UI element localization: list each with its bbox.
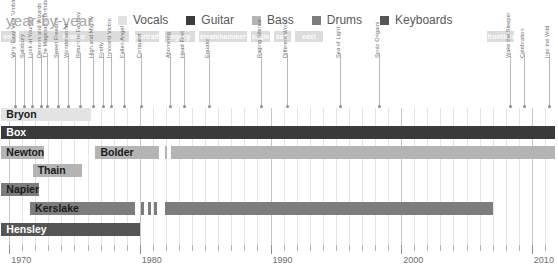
- legend-item-vocals: Vocals: [118, 13, 168, 27]
- album-tick-label: Equator: [204, 38, 210, 58]
- axis-tick: [480, 245, 481, 251]
- album-tick: Wonderworld: [68, 53, 69, 108]
- album-tick: Return to Fantasy: [80, 53, 81, 108]
- album-tick-markers: Very 'Eavy Very 'UmbleSalisburyLook at Y…: [0, 44, 558, 108]
- axis-tick: [48, 245, 49, 251]
- legend-label: Keyboards: [395, 13, 452, 27]
- axis-tick: [22, 245, 23, 251]
- axis-tick: [35, 245, 36, 251]
- axis-tick: [218, 245, 219, 251]
- album-tick-label: Conquest: [136, 33, 142, 58]
- album-tick-line: [261, 53, 262, 105]
- member-label-thain: Thain: [33, 164, 66, 177]
- album-tick-label: Different World: [282, 19, 288, 58]
- album-tick-label: Firefly: [98, 42, 104, 58]
- album-tick-line: [32, 53, 33, 105]
- album-tick: Conquest: [141, 53, 142, 108]
- album-tick-line: [111, 53, 112, 105]
- album-tick: High and Mighty: [93, 53, 94, 108]
- album-tick-line: [15, 53, 16, 105]
- axis-tick: [427, 245, 428, 251]
- member-label-box: Box: [1, 126, 26, 139]
- album-tick: Look at Yourself: [32, 53, 33, 108]
- album-tick-line: [103, 53, 104, 105]
- album-tick-label: Demons and Wizards: [36, 3, 42, 58]
- album-tick-line: [93, 53, 94, 105]
- label-ribbon: verbronzeportraitlegacysteamhammereagles…: [0, 31, 558, 42]
- axis-tick: [310, 245, 311, 251]
- axis-tick: [388, 245, 389, 251]
- timeline-bar: [1, 126, 555, 139]
- year-by-year-chart: year-by-year VocalsGuitarBassDrumsKeyboa…: [0, 0, 558, 274]
- axis-tick: [519, 245, 520, 251]
- album-tick-label: Raging Silence: [256, 19, 262, 58]
- axis-tick: [375, 245, 376, 251]
- album-tick-label: Look at Yourself: [27, 17, 33, 58]
- album-tick-label: Abominog: [165, 32, 171, 58]
- album-tick-line: [340, 53, 341, 105]
- member-label-bolder: Bolder: [95, 146, 133, 159]
- axis-tick: [440, 245, 441, 251]
- album-tick-label: Sea of Light: [335, 27, 341, 58]
- member-label-napier: Napier: [1, 183, 39, 196]
- axis-tick-label: 1970: [11, 255, 31, 265]
- album-tick-line: [41, 53, 42, 105]
- album-tick-label: Celebration: [519, 28, 525, 58]
- axis-tick: [9, 245, 10, 254]
- album-tick-line: [524, 53, 525, 105]
- axis-tick: [244, 245, 245, 251]
- axis-tick-label: 2000: [403, 255, 423, 265]
- album-tick: Very 'Eavy Very 'Umble: [15, 53, 16, 108]
- album-tick: Demons and Wizards: [41, 53, 42, 108]
- album-tick: Into the Wild: [549, 53, 550, 108]
- album-tick-line: [80, 53, 81, 105]
- axis-tick: [88, 245, 89, 251]
- x-axis: 19701980199020002010: [0, 245, 558, 274]
- legend-item-drums: Drums: [312, 13, 362, 27]
- axis-tick: [74, 245, 75, 251]
- axis-tick: [140, 245, 141, 254]
- legend-label: Vocals: [133, 13, 168, 27]
- album-tick-label: Wonderworld: [63, 24, 69, 58]
- timeline-bar: [165, 146, 168, 159]
- legend-swatch-icon: [312, 16, 321, 25]
- album-tick-line: [287, 53, 288, 105]
- album-tick-label: High and Mighty: [88, 16, 94, 58]
- album-tick-line: [58, 53, 59, 105]
- album-tick: Equator: [209, 53, 210, 108]
- axis-tick: [271, 245, 272, 254]
- legend-label: Guitar: [201, 13, 234, 27]
- axis-tick: [323, 245, 324, 251]
- axis-tick: [114, 245, 115, 251]
- album-tick-line: [510, 53, 511, 105]
- album-tick: Sweet Freedom: [58, 53, 59, 108]
- album-tick-line: [124, 53, 125, 105]
- member-label-newton: Newton: [1, 146, 44, 159]
- album-tick-label: Salisbury: [19, 34, 25, 58]
- axis-tick: [284, 245, 285, 251]
- timeline-bar: [148, 202, 151, 215]
- album-tick-line: [209, 53, 210, 105]
- axis-tick: [467, 245, 468, 251]
- legend-swatch-icon: [118, 16, 127, 25]
- album-tick-label: Into the Wild: [544, 26, 550, 58]
- album-tick: Celebration: [524, 53, 525, 108]
- axis-tick: [127, 245, 128, 251]
- album-tick-label: Wake the Sleeper: [505, 12, 511, 58]
- axis-tick-label: 1980: [142, 255, 162, 265]
- album-tick: Salisbury: [24, 53, 25, 108]
- album-tick: Raging Silence: [261, 53, 262, 108]
- album-tick: The Magician's Birthday: [47, 53, 48, 108]
- axis-tick: [205, 245, 206, 251]
- album-tick: Different World: [287, 53, 288, 108]
- album-tick-label: Sweet Freedom: [53, 17, 59, 58]
- album-tick-line: [141, 53, 142, 105]
- album-tick-line: [379, 53, 380, 105]
- legend-label: Drums: [327, 13, 362, 27]
- album-tick-label: Fallen Angel: [119, 26, 125, 58]
- timeline-bar: [141, 202, 144, 215]
- axis-tick: [506, 245, 507, 251]
- timeline-bar: [165, 202, 493, 215]
- album-tick: Wake the Sleeper: [510, 53, 511, 108]
- timeline-bar: [154, 202, 157, 215]
